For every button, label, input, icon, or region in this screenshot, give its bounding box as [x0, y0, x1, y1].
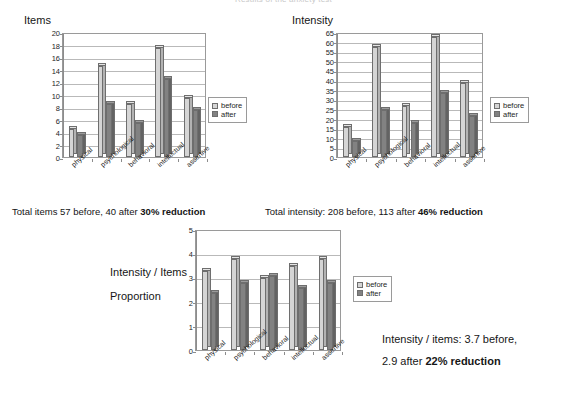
- bar-top-face: [77, 132, 86, 135]
- bar-top-face: [381, 107, 390, 110]
- bar-psychological-before: [98, 63, 107, 157]
- bar-top-face: [135, 120, 144, 123]
- legend-swatch-after-icon: [212, 111, 218, 117]
- bar-psychological-before: [372, 44, 381, 157]
- bar-top-face: [240, 280, 249, 283]
- legend-label-before: before: [503, 102, 524, 110]
- gridline: [63, 71, 205, 72]
- bar-front-face: [184, 98, 190, 158]
- bar-intellectual-before: [289, 263, 298, 350]
- y-axis-tick-label: 10: [326, 136, 334, 144]
- bar-side-face: [169, 76, 172, 154]
- legend-swatch-before-icon: [212, 103, 218, 109]
- bar-top-face: [343, 124, 352, 127]
- y-axis-tick-label: 12: [52, 80, 60, 88]
- bar-side-face: [246, 280, 249, 347]
- bar-top-face: [372, 44, 381, 47]
- summary-intensity: Total intensity: 208 before, 113 after 4…: [265, 206, 483, 217]
- bar-top-face: [69, 126, 78, 129]
- bar-top-face: [184, 95, 193, 98]
- legend-swatch-before-icon: [494, 103, 500, 109]
- gridline: [63, 59, 205, 60]
- bar-psychological-after: [240, 280, 249, 350]
- bar-front-face: [327, 283, 333, 350]
- bar-top-face: [440, 90, 449, 93]
- bar-top-face: [402, 103, 411, 106]
- bar-front-face: [440, 93, 446, 157]
- y-axis-tick-label: 20: [52, 30, 60, 38]
- bar-front-face: [431, 37, 437, 157]
- y-axis-line: [63, 34, 64, 157]
- legend-label-after: after: [503, 111, 518, 119]
- bar-side-face: [304, 285, 307, 347]
- bar-front-face: [402, 106, 408, 157]
- x-axis-tick-mark: [484, 159, 485, 162]
- legend-label-before: before: [366, 281, 387, 289]
- bar-top-face: [106, 101, 115, 104]
- proportion-note-line2: 2.9 after 22% reduction: [382, 355, 501, 367]
- bar-front-face: [269, 276, 275, 350]
- y-axis-tick-label: 15: [326, 126, 334, 134]
- bar-top-face: [327, 280, 336, 283]
- x-axis-tick-mark: [178, 159, 179, 162]
- x-axis-tick-mark: [455, 159, 456, 162]
- chart-proportion-title-line2: Proportion: [110, 290, 161, 302]
- chart-intensity-legend: before after: [490, 97, 529, 123]
- y-axis-tick-mark: [60, 159, 63, 160]
- legend-label-after: after: [221, 111, 236, 119]
- bar-assertive-before: [184, 95, 193, 158]
- gridline: [63, 46, 205, 47]
- proportion-note-reduction: 22% reduction: [425, 355, 500, 367]
- bar-front-face: [164, 79, 170, 157]
- chart-intensity-plot-area: 05101520253035404550556065: [336, 33, 483, 158]
- legend-row-before: before: [494, 102, 524, 110]
- y-axis-tick-label: 14: [52, 68, 60, 76]
- bar-top-face: [469, 113, 478, 116]
- y-axis-tick-label: 55: [326, 49, 334, 57]
- x-axis-tick-mark: [342, 352, 343, 355]
- chart-proportion: Intensity / Items Proportion 012345 befo…: [110, 228, 410, 404]
- legend-label-after: after: [366, 290, 381, 298]
- legend-swatch-after-icon: [357, 290, 363, 296]
- x-axis-tick-mark: [254, 352, 255, 355]
- chart-items: Items 02468101214161820 before after phy…: [0, 14, 250, 204]
- y-axis-tick-label: 60: [326, 40, 334, 48]
- chart-intensity-title: Intensity: [292, 14, 333, 26]
- legend-row-after: after: [212, 111, 242, 119]
- proportion-note-line1: Intensity / items: 3.7 before,: [382, 333, 517, 345]
- bar-top-face: [269, 273, 278, 276]
- bar-front-face: [211, 293, 217, 351]
- bar-front-face: [240, 283, 246, 350]
- bar-front-face: [202, 271, 208, 350]
- y-axis-tick-label: 10: [52, 93, 60, 101]
- x-axis-tick-mark: [207, 159, 208, 162]
- x-axis-tick-mark: [92, 159, 93, 162]
- bar-side-face: [112, 101, 115, 154]
- x-axis-tick-mark: [366, 159, 367, 162]
- bar-behavioral-before: [126, 101, 135, 157]
- summary-intensity-reduction: 46% reduction: [418, 206, 483, 217]
- bar-top-face: [319, 256, 328, 259]
- bar-intellectual-after: [440, 90, 449, 157]
- chart-items-title: Items: [24, 14, 51, 26]
- bar-front-face: [372, 47, 378, 157]
- gridline: [337, 72, 482, 73]
- y-axis-tick-label: 16: [52, 55, 60, 63]
- bar-front-face: [69, 129, 75, 157]
- y-axis-tick-label: 40: [326, 78, 334, 86]
- legend-label-before: before: [221, 102, 242, 110]
- y-axis-tick-label: 45: [326, 69, 334, 77]
- summary-items-text: Total items 57 before, 40 after: [12, 206, 138, 217]
- y-axis-tick-label: 50: [326, 59, 334, 67]
- x-axis-tick-mark: [284, 352, 285, 355]
- bar-front-face: [289, 266, 295, 350]
- page-title: Results of the anxiety test: [0, 0, 567, 4]
- y-axis-tick-mark: [334, 159, 337, 160]
- x-axis-tick-mark: [149, 159, 150, 162]
- x-axis-tick-mark: [225, 352, 226, 355]
- legend-row-after: after: [357, 290, 387, 298]
- legend-row-before: before: [212, 102, 242, 110]
- y-axis-tick-label: 65: [326, 30, 334, 38]
- bar-top-face: [298, 285, 307, 288]
- bar-physical-before: [69, 126, 78, 157]
